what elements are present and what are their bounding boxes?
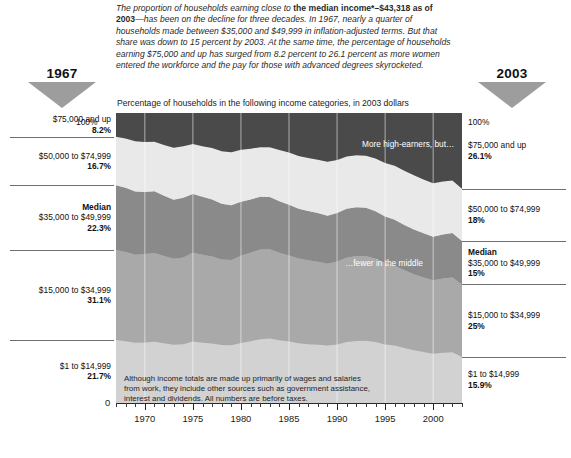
median-tag: Median (468, 247, 571, 257)
legend-percent: 15% (468, 268, 571, 278)
legend-entry: $15,000 to $34,99925% (462, 310, 571, 331)
legend-divider (462, 241, 566, 242)
legend-entry: $50,000 to $74,99918% (462, 204, 571, 225)
legend-range: $35,000 to $49,999 (2, 212, 111, 222)
legend-percent: 8.2% (2, 125, 111, 135)
legend-range: $15,000 to $34,999 (2, 285, 111, 295)
legend-range: $50,000 to $74,999 (2, 151, 111, 161)
legend-range: $1 to $14,999 (2, 361, 111, 371)
legend-percent: 18% (468, 215, 571, 225)
infographic-root: The proportion of households earning clo… (0, 0, 571, 458)
legend-range: $35,000 to $49,999 (468, 258, 571, 268)
chart-footnote: Although income totals are made up prima… (124, 374, 374, 405)
legend-divider (10, 340, 114, 341)
legend-entry: $75,000 and up8.2% (2, 114, 114, 135)
legend-percent: 25% (468, 321, 571, 331)
annotation-high-earners: More high-earners, but… (362, 139, 454, 149)
x-axis-tick-label: 1985 (279, 413, 300, 424)
legend-column-2003: $75,000 and up26.1%$50,000 to $74,99918%… (462, 110, 571, 410)
legend-percent: 31.1% (2, 295, 111, 305)
legend-entry: Median$35,000 to $49,99915% (462, 247, 571, 278)
intro-text-part1: The proportion of households earning clo… (116, 3, 293, 13)
legend-percent: 21.7% (2, 371, 111, 381)
cut-off-text (118, 448, 258, 456)
year-marker-right: 2003 (462, 66, 562, 108)
legend-entry: Median$35,000 to $49,99922.3% (2, 202, 114, 233)
legend-divider (462, 357, 566, 358)
triangle-down-icon (28, 82, 96, 108)
legend-percent: 22.3% (2, 223, 111, 233)
annotation-fewer-middle: …fewer in the middle (345, 258, 423, 268)
triangle-down-icon (478, 82, 546, 108)
year-marker-left: 1967 (12, 66, 112, 108)
x-axis-tick-label: 1975 (182, 413, 203, 424)
median-tag: Median (2, 202, 111, 212)
legend-entry: $1 to $14,99915.9% (462, 369, 571, 390)
legend-column-1967: $75,000 and up8.2%$50,000 to $74,99916.7… (2, 110, 114, 410)
legend-range: $15,000 to $34,999 (468, 310, 571, 320)
legend-divider (10, 137, 114, 138)
legend-entry: $15,000 to $34,99931.1% (2, 285, 114, 306)
legend-divider (10, 185, 114, 186)
intro-paragraph: The proportion of households earning clo… (116, 3, 454, 71)
chart-subtitle: Percentage of households in the followin… (117, 98, 409, 108)
legend-range: $75,000 and up (468, 140, 571, 150)
year-label-2003: 2003 (462, 66, 562, 81)
legend-entry: $1 to $14,99921.7% (2, 361, 114, 382)
year-label-1967: 1967 (12, 66, 112, 81)
legend-entry: $50,000 to $74,99916.7% (2, 151, 114, 172)
intro-text-part2: —has been on the decline for three decad… (116, 14, 451, 70)
legend-percent: 15.9% (468, 380, 571, 390)
x-axis-tick-label: 1990 (327, 413, 348, 424)
legend-range: $1 to $14,999 (468, 369, 571, 379)
legend-divider (462, 284, 566, 285)
legend-range: $50,000 to $74,999 (468, 204, 571, 214)
legend-divider (462, 189, 566, 190)
legend-range: $75,000 and up (2, 114, 111, 124)
legend-divider (10, 250, 114, 251)
x-axis-tick-label: 2000 (423, 413, 444, 424)
x-axis-tick-label: 1970 (134, 413, 155, 424)
x-axis-tick-label: 1995 (375, 413, 396, 424)
legend-percent: 26.1% (468, 151, 571, 161)
legend-percent: 16.7% (2, 161, 111, 171)
x-axis-tick-label: 1980 (230, 413, 251, 424)
legend-entry: $75,000 and up26.1% (462, 140, 571, 161)
